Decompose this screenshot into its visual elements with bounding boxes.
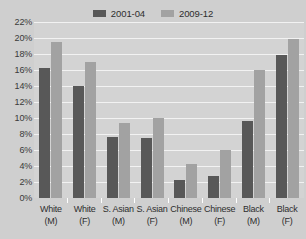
- category-tick: [135, 198, 169, 203]
- bar: [107, 137, 118, 198]
- x-axis-label-line2: (F): [135, 216, 169, 228]
- plot-wrapper: 22%20%18%16%14%12%10%8%6%4%2%0% White(M)…: [0, 22, 306, 239]
- bar: [288, 39, 299, 198]
- x-axis-label: Chinese(M): [169, 204, 203, 238]
- y-axis-tick-label: 0%: [19, 193, 32, 203]
- x-axis-label-line1: Black: [277, 204, 298, 214]
- bar: [220, 150, 231, 198]
- bar-group: [68, 22, 102, 198]
- category-tick: [169, 198, 203, 203]
- x-axis-label-line1: White: [74, 204, 96, 214]
- x-axis-label-line2: (F): [270, 216, 304, 228]
- bar: [186, 164, 197, 198]
- bars-layer: [34, 22, 304, 198]
- legend-label: 2001-04: [111, 8, 145, 19]
- bar: [39, 68, 50, 198]
- category-tick: [34, 198, 68, 203]
- bar-group: [102, 22, 136, 198]
- x-axis-label-line1: Chinese: [204, 204, 235, 214]
- bar: [153, 118, 164, 198]
- category-tick: [102, 198, 136, 203]
- bar-group: [203, 22, 237, 198]
- legend-swatch-icon: [161, 10, 174, 17]
- x-axis-label-line1: S. Asian: [137, 204, 168, 214]
- x-axis-label: White(M): [34, 204, 68, 238]
- x-axis-label: S. Asian(M): [102, 204, 136, 238]
- legend-swatch-icon: [93, 10, 106, 17]
- x-axis-label-line1: White: [40, 204, 62, 214]
- category-tick: [237, 198, 271, 203]
- bar-group: [34, 22, 68, 198]
- y-axis-tick-label: 10%: [15, 113, 32, 123]
- x-axis-label-line1: Chinese: [170, 204, 201, 214]
- y-axis-tick-label: 22%: [15, 17, 32, 27]
- category-axis: [34, 198, 304, 203]
- x-axis-label: White(F): [68, 204, 102, 238]
- legend-entry: 2009-12: [161, 8, 213, 19]
- bar: [119, 123, 130, 198]
- legend-entry: 2001-04: [93, 8, 145, 19]
- plot-area: [34, 22, 304, 198]
- bar-group: [169, 22, 203, 198]
- x-axis-label-line2: (F): [68, 216, 102, 228]
- y-axis-tick-label: 6%: [19, 145, 32, 155]
- x-axis-label-line2: (F): [203, 216, 237, 228]
- x-axis-label-line2: (M): [102, 216, 136, 228]
- bar: [141, 138, 152, 198]
- bar: [85, 62, 96, 198]
- category-tick: [203, 198, 237, 203]
- bar: [51, 42, 62, 198]
- bar: [242, 121, 253, 198]
- chart-legend: 2001-042009-12: [0, 6, 306, 20]
- x-axis-labels: White(M)White(F)S. Asian(M)S. Asian(F)Ch…: [34, 204, 304, 238]
- bar: [254, 70, 265, 198]
- bar-group: [270, 22, 304, 198]
- bar: [208, 176, 219, 198]
- x-axis-label-line2: (M): [169, 216, 203, 228]
- bar-group: [135, 22, 169, 198]
- x-axis-label: Black(M): [237, 204, 271, 238]
- bar: [174, 180, 185, 198]
- y-axis-tick-label: 14%: [15, 81, 32, 91]
- x-axis-label-line1: Black: [243, 204, 264, 214]
- x-axis-label-line1: S. Asian: [103, 204, 134, 214]
- legend-label: 2009-12: [179, 8, 213, 19]
- bar-chart: 2001-042009-12 22%20%18%16%14%12%10%8%6%…: [0, 0, 306, 239]
- y-axis-tick-label: 4%: [19, 161, 32, 171]
- y-axis-tick-label: 12%: [15, 97, 32, 107]
- bar: [73, 86, 84, 198]
- y-axis: 22%20%18%16%14%12%10%8%6%4%2%0%: [2, 22, 32, 198]
- y-axis-tick-label: 16%: [15, 65, 32, 75]
- x-axis-label: Chinese(F): [203, 204, 237, 238]
- x-axis-label-line2: (M): [34, 216, 68, 228]
- bar-group: [237, 22, 271, 198]
- category-tick: [270, 198, 304, 203]
- x-axis-label-line2: (M): [237, 216, 271, 228]
- y-axis-tick-label: 2%: [19, 177, 32, 187]
- bar: [276, 55, 287, 198]
- category-tick: [68, 198, 102, 203]
- y-axis-tick-label: 8%: [19, 129, 32, 139]
- y-axis-tick-label: 20%: [15, 33, 32, 43]
- y-axis-tick-label: 18%: [15, 49, 32, 59]
- x-axis-label: Black(F): [270, 204, 304, 238]
- x-axis-label: S. Asian(F): [135, 204, 169, 238]
